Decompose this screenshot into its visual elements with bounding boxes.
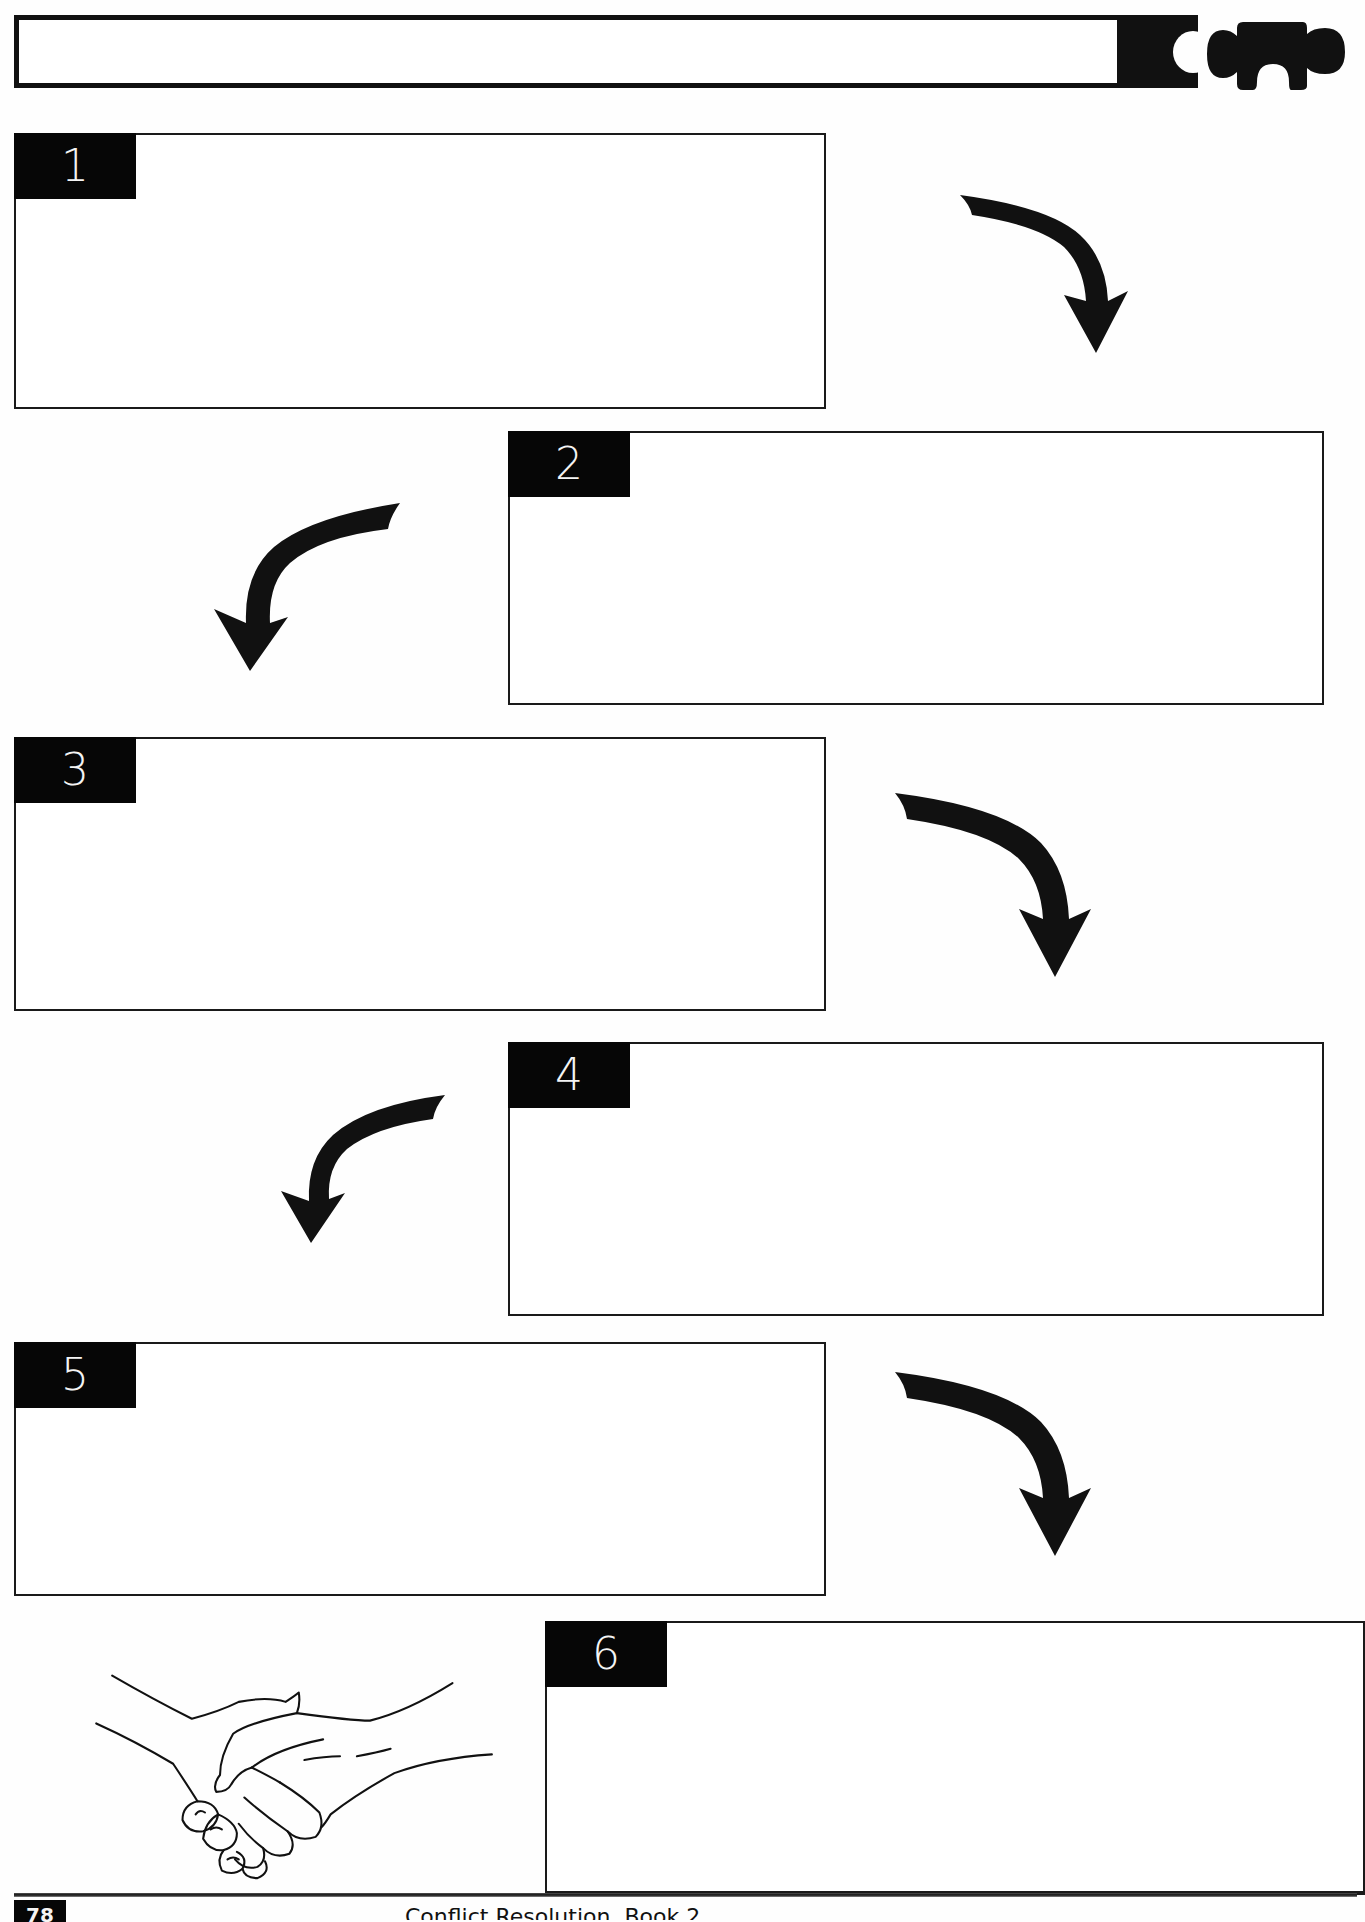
step-number-tab: 3: [14, 737, 136, 803]
handshake-icon: [75, 1655, 515, 1880]
puzzle-piece-icon: [1205, 16, 1357, 92]
step-number-tab: 1: [14, 133, 136, 199]
step-number-tab: 5: [14, 1342, 136, 1408]
step-box-2[interactable]: 2: [508, 431, 1324, 705]
step-box-3[interactable]: 3: [14, 737, 826, 1011]
page-number: 78: [14, 1900, 66, 1922]
curved-arrow-down-left-icon: [275, 1095, 445, 1245]
curved-arrow-down-right-icon: [895, 793, 1105, 978]
step-box-1[interactable]: 1: [14, 133, 826, 409]
curved-arrow-down-left-icon: [210, 503, 400, 673]
step-box-5[interactable]: 5: [14, 1342, 826, 1596]
footer-divider: [14, 1893, 1357, 1897]
step-number-tab: 2: [508, 431, 630, 497]
title-field[interactable]: [14, 15, 1122, 88]
step-number-tab: 6: [545, 1621, 667, 1687]
book-title: Conflict Resolution, Book 2: [405, 1902, 700, 1920]
step-box-4[interactable]: 4: [508, 1042, 1324, 1316]
step-number-tab: 4: [508, 1042, 630, 1108]
curved-arrow-down-right-icon: [960, 195, 1130, 355]
step-box-6[interactable]: 6: [545, 1621, 1365, 1895]
curved-arrow-down-right-icon: [895, 1372, 1105, 1557]
